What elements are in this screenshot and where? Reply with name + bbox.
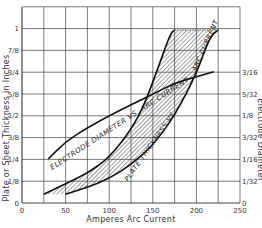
y-right-tick-label: 1/32 [242, 178, 258, 186]
y-axis-right-title: Electrode Diameter [256, 98, 262, 181]
welding-chart: 05010015020025001/81/43/81/25/83/47/8101… [0, 0, 262, 228]
x-tick-label: 150 [146, 207, 159, 215]
y-axis-left-title: Plate or Sheet Thickness in Inches [2, 54, 11, 201]
y-right-tick-label: 5/32 [242, 91, 258, 99]
y-left-tick-label: 1 [15, 25, 19, 33]
x-tick-label: 200 [190, 207, 203, 215]
axis-ticks: 05010015020025001/81/43/81/25/83/47/8101… [8, 25, 259, 215]
y-right-tick-label: 3/16 [242, 69, 258, 77]
x-tick-label: 250 [233, 207, 246, 215]
y-right-tick-label: 1/16 [242, 156, 258, 164]
x-axis-title: Amperes Arc Current [86, 215, 175, 224]
y-left-tick-label: 7/8 [8, 47, 19, 55]
x-tick-label: 50 [61, 207, 70, 215]
y-right-tick-label: 1/8 [242, 112, 253, 120]
y-right-tick-label: 0 [242, 200, 246, 208]
y-right-tick-label: 3/32 [242, 134, 258, 142]
x-tick-label: 0 [20, 207, 24, 215]
y-left-tick-label: 0 [15, 200, 19, 208]
x-tick-label: 100 [103, 207, 116, 215]
